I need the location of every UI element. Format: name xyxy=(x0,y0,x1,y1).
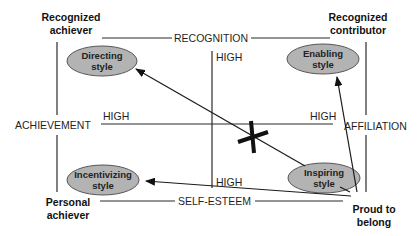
inspiring-line2: style xyxy=(289,178,359,189)
arrow-inspiring-to-directing xyxy=(136,69,305,166)
corner-proud-to-belong: Proud to belong xyxy=(346,203,402,229)
enabling-line2: style xyxy=(288,59,358,70)
directing-style-label: Directing style xyxy=(67,50,137,72)
incentivizing-style-label: Incentivizing style xyxy=(66,169,140,191)
axis-self-esteem: SELF-ESTEEM xyxy=(178,195,251,207)
directing-line1: Directing xyxy=(67,50,137,61)
corner-tr-line1: Recognized xyxy=(319,11,397,24)
enabling-line1: Enabling xyxy=(288,48,358,59)
leadership-styles-diagram: Recognized achiever Recognized contribut… xyxy=(0,0,417,236)
blocked-cross-icon xyxy=(238,121,268,153)
corner-tl-line1: Recognized xyxy=(38,11,104,24)
corner-tr-line2: contributor xyxy=(319,24,397,37)
axis-achievement: ACHIEVEMENT xyxy=(15,119,91,131)
corner-bl-line1: Personal xyxy=(42,196,94,209)
incentivizing-line2: style xyxy=(66,180,140,191)
directing-line2: style xyxy=(67,61,137,72)
axis-recognition: RECOGNITION xyxy=(174,32,248,44)
axis-affiliation: AFFILIATION xyxy=(344,120,407,132)
inspiring-style-label: Inspiring style xyxy=(289,167,359,189)
corner-br-line1: Proud to xyxy=(346,203,402,216)
inspiring-line1: Inspiring xyxy=(289,167,359,178)
corner-br-line2: belong xyxy=(346,216,402,229)
incentivizing-line1: Incentivizing xyxy=(66,169,140,180)
corner-bl-line2: achiever xyxy=(42,209,94,222)
corner-personal-achiever: Personal achiever xyxy=(42,196,94,222)
high-right-mid: HIGH xyxy=(310,110,336,122)
high-left-mid: HIGH xyxy=(103,110,129,122)
corner-recognized-contributor: Recognized contributor xyxy=(319,11,397,37)
corner-tl-line2: achiever xyxy=(38,24,104,37)
corner-recognized-achiever: Recognized achiever xyxy=(38,11,104,37)
high-center-top: HIGH xyxy=(216,51,242,63)
enabling-style-label: Enabling style xyxy=(288,48,358,70)
high-center-bottom: HIGH xyxy=(216,176,242,188)
